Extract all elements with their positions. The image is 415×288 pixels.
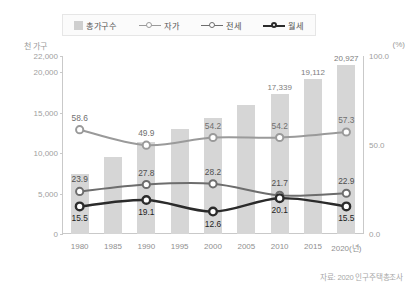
data-point-marker-jeonse (76, 188, 83, 195)
data-point-marker-owner-occupied (76, 126, 83, 133)
data-point-marker-owner-occupied (343, 128, 350, 135)
data-label-owner-occupied: 57.3 (338, 115, 354, 125)
data-point-marker-jeonse (143, 181, 150, 188)
plot-inner: 22,00020,00015,00010,0005,0000100.050.00… (63, 56, 363, 234)
y-axis-tick-mark (60, 234, 63, 235)
data-point-marker-owner-occupied (276, 134, 283, 141)
data-label-monthly-rent: 19.1 (138, 207, 154, 217)
data-label-owner-occupied: 49.9 (138, 128, 154, 138)
data-point-marker-monthly-rent (76, 203, 84, 211)
x-axis-tick-label: 2005 (237, 242, 255, 251)
data-label-monthly-rent: 12.6 (205, 219, 221, 229)
data-point-marker-owner-occupied (143, 142, 150, 149)
data-point-marker-monthly-rent (209, 208, 217, 216)
data-label-monthly-rent: 15.5 (338, 213, 354, 223)
data-point-marker-owner-occupied (209, 134, 216, 141)
data-label-monthly-rent: 15.5 (72, 213, 88, 223)
y-axis-tick-left: 0 (54, 230, 58, 239)
line-marker-icon (139, 21, 161, 30)
line-marker-icon (201, 21, 223, 30)
right-axis-unit: (%) (393, 40, 405, 49)
y-axis-tick-left: 20,000 (34, 68, 58, 77)
plot-area: 22,00020,00015,00010,0005,0000100.050.00… (62, 56, 364, 234)
y-axis-tick-left: 15,000 (34, 108, 58, 117)
data-point-marker-monthly-rent (276, 194, 284, 202)
data-point-marker-monthly-rent (343, 203, 351, 211)
x-axis-tick-label: 1990 (137, 242, 155, 251)
legend-label: 월세 (288, 19, 304, 31)
data-point-marker-jeonse (209, 180, 216, 187)
legend-item-total-households[interactable]: 총가구수 (74, 19, 117, 31)
data-label-jeonse: 27.8 (138, 168, 154, 178)
x-axis-tick-label: 2000 (204, 242, 222, 251)
chart-legend: 총가구수 자가 전세 월세 (62, 14, 316, 36)
y-axis-tick-left: 5,000 (38, 189, 58, 198)
data-label-jeonse: 22.9 (338, 176, 354, 186)
data-point-marker-monthly-rent (143, 196, 151, 204)
x-axis-tick-label: 1985 (104, 242, 122, 251)
legend-item-owner-occupied[interactable]: 자가 (139, 19, 180, 31)
y-axis-tick-right: 0.0 (369, 230, 380, 239)
data-label-jeonse: 28.2 (205, 167, 221, 177)
chart-container: 총가구수 자가 전세 월세 천 가구 (%) 22,00020,00015,00… (0, 0, 415, 288)
data-label-jeonse: 21.7 (272, 178, 288, 188)
x-axis-tick-label: 2010 (271, 242, 289, 251)
x-axis-tick-label: 2020(년) (331, 242, 361, 253)
left-axis-unit: 천 가구 (24, 40, 47, 51)
legend-label: 자가 (164, 19, 180, 31)
line-marker-icon (263, 21, 285, 30)
data-label-jeonse: 23.9 (72, 174, 88, 184)
x-axis-tick-label: 1995 (171, 242, 189, 251)
x-axis-tick-label: 1980 (71, 242, 89, 251)
legend-label: 총가구수 (86, 19, 117, 31)
legend-item-monthly-rent[interactable]: 월세 (263, 19, 304, 31)
y-axis-tick-right: 100.0 (369, 52, 389, 61)
data-label-owner-occupied: 54.2 (205, 121, 221, 131)
x-axis-tick-label: 2015 (304, 242, 322, 251)
source-note: 자료: 2020 인구주택총조사 (320, 271, 403, 282)
data-label-monthly-rent: 20.1 (272, 205, 288, 215)
legend-label: 전세 (226, 19, 242, 31)
y-axis-tick-left: 22,000 (34, 52, 58, 61)
bar-swatch-icon (74, 21, 83, 30)
data-label-owner-occupied: 54.2 (272, 121, 288, 131)
line-series-layer (63, 56, 363, 234)
data-label-owner-occupied: 58.6 (72, 113, 88, 123)
legend-item-jeonse[interactable]: 전세 (201, 19, 242, 31)
y-axis-tick-right: 50.0 (369, 141, 385, 150)
y-axis-tick-left: 10,000 (34, 149, 58, 158)
data-point-marker-jeonse (343, 190, 350, 197)
